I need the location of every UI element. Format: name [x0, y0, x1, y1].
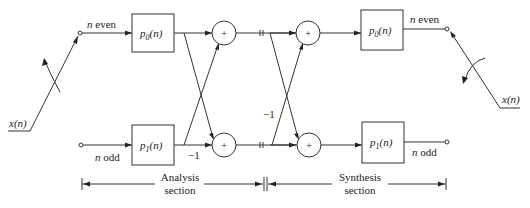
input-switch-terminal-even: [78, 31, 82, 35]
output-label: x(n): [501, 93, 520, 106]
p0-analysis-block: p0(n): [132, 14, 174, 52]
svg-text:+: +: [306, 140, 312, 151]
svg-text:+: +: [221, 140, 227, 151]
n-even-label-synthesis: n even: [410, 13, 440, 25]
input-switch-terminal-odd: [79, 143, 83, 147]
adder-analysis-top: +: [212, 21, 236, 45]
output-switch-terminal-odd: [445, 140, 449, 144]
analysis-section-label-2: section: [164, 184, 196, 196]
analysis-section-span: Analysis section: [82, 171, 263, 196]
n-odd-label-analysis: n odd: [95, 151, 120, 163]
p1-synthesis-block: p1(n): [362, 122, 404, 163]
n-odd-label-synthesis: n odd: [412, 146, 437, 158]
p1-analysis-block: p1(n): [132, 125, 174, 165]
adder-synthesis-bottom: +: [297, 133, 321, 157]
analysis-section-label-1: Analysis: [161, 171, 200, 183]
analysis-gain-label: −1: [188, 149, 200, 161]
synthesis-section-label-1: Synthesis: [339, 171, 381, 183]
output-switch-terminal-even: [445, 27, 449, 31]
synthesis-gain-label: −1: [263, 108, 275, 120]
p0-synthesis-block: p0(n): [361, 10, 403, 50]
synthesis-section-label-2: section: [344, 184, 376, 196]
adder-synthesis-top: +: [296, 21, 320, 45]
synthesis-section-span: Synthesis section: [268, 171, 446, 196]
n-even-label-analysis: n even: [87, 18, 117, 30]
filter-bank-diagram: x(n) n even p0(n) n odd p1(n) −1 + +: [0, 0, 530, 208]
section-divider: [264, 177, 267, 191]
input-commutator: x(n): [8, 31, 82, 131]
adder-analysis-bottom: +: [212, 133, 236, 157]
svg-text:+: +: [305, 28, 311, 39]
svg-text:+: +: [221, 28, 227, 39]
output-commutator: x(n): [450, 31, 520, 108]
input-label: x(n): [8, 117, 27, 130]
